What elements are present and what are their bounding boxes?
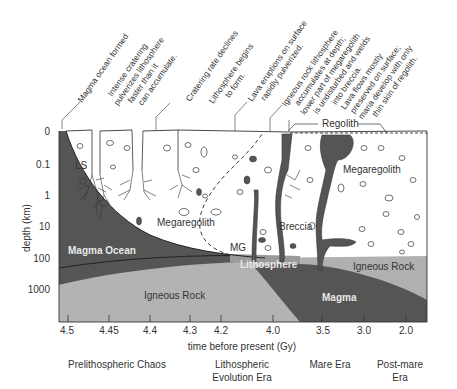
lunar-evolution-diagram: Regolith LS Megaregolith Megaregolith Ma… [0, 0, 457, 389]
y-tick-0.1: 0.1 [36, 159, 50, 170]
label-megaregolith-left: Megaregolith [157, 217, 215, 228]
x-tick-4.2: 4.2 [214, 325, 228, 336]
label-mg: MG [230, 242, 246, 253]
era-prelithospheric-chaos: Prelithospheric Chaos [68, 359, 166, 370]
cross-section [59, 130, 427, 322]
label-regolith: Regolith [322, 118, 359, 129]
era-lithospheric-evolution-1: Lithospheric [215, 359, 269, 370]
label-megaregolith-right: Megaregolith [343, 164, 401, 175]
label-magma-ocean: Magma Ocean [68, 245, 136, 256]
y-tick-1: 1 [44, 190, 50, 201]
x-tick-4.3: 4.3 [183, 325, 197, 336]
era-post-mare-2: Era [392, 372, 408, 383]
label-ls: LS [75, 160, 88, 171]
era-mare: Mare Era [309, 359, 351, 370]
x-tick-4.5: 4.5 [60, 325, 74, 336]
x-axis-label: time before present (Gy) [188, 341, 296, 352]
leader-lines [62, 102, 289, 131]
y-tick-100: 100 [33, 253, 50, 264]
y-tick-0: 0 [44, 126, 50, 137]
label-igneous-rock-right: Igneous Rock [353, 261, 415, 272]
y-axis: 0 0.1 1 10 100 1000 depth (km) [21, 126, 50, 295]
x-tick-4.45: 4.45 [99, 325, 119, 336]
x-tick-4.4: 4.4 [143, 325, 157, 336]
label-magma: Magma [322, 292, 357, 303]
x-tick-4.0: 4.0 [266, 325, 280, 336]
label-lithosphere: Lithosphere [240, 259, 298, 270]
era-labels: Prelithospheric Chaos Lithospheric Evolu… [68, 359, 423, 383]
annotations: Magma ocean formed Intense cratering pul… [62, 17, 423, 131]
label-igneous-rock-bottom: Igneous Rock [144, 290, 206, 301]
era-post-mare-1: Post-mare [377, 359, 424, 370]
y-axis-label: depth (km) [21, 204, 32, 252]
y-tick-10: 10 [39, 221, 51, 232]
era-lithospheric-evolution-2: Evolution Era [212, 372, 272, 383]
x-tick-2.0: 2.0 [399, 325, 413, 336]
label-breccia: Breccia [279, 221, 313, 232]
y-tick-1000: 1000 [28, 284, 51, 295]
x-tick-3.5: 3.5 [316, 325, 330, 336]
x-tick-3.0: 3.0 [357, 325, 371, 336]
